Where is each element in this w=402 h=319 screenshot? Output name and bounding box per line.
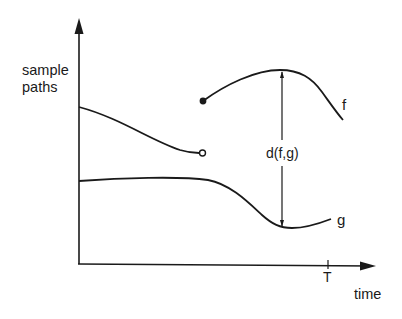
x-axis-label: time [354, 286, 381, 302]
x-tick-label-T: T [323, 269, 332, 285]
y-axis-label-line1: sample [22, 62, 69, 78]
open-circle-endpoint-icon [200, 150, 206, 156]
curve-f-label: f [342, 96, 347, 113]
curve-f [200, 70, 343, 120]
x-axis-arrowhead-icon [360, 262, 376, 271]
y-axis-arrowhead-icon [75, 18, 84, 34]
curve-upper-left-segment [79, 107, 206, 156]
sample-paths-diagram: sample paths d(f,g) f g T time [0, 0, 402, 319]
y-axis-label-line2: paths [22, 79, 57, 95]
distance-label: d(f,g) [266, 145, 299, 161]
curve-g-label: g [337, 211, 345, 228]
y-axis [75, 18, 84, 264]
curve-g [79, 178, 331, 228]
